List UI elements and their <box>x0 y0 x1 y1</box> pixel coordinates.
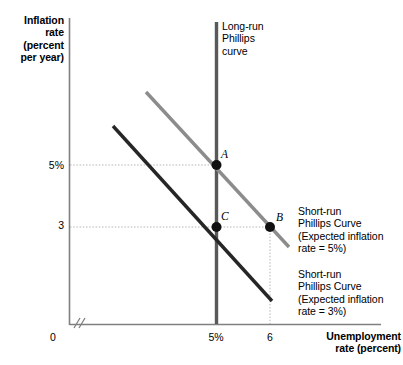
phillips-curve-diagram: Inflation rate (percent per year) Unempl… <box>0 0 403 365</box>
y-tick-label-5pct: 5% <box>36 159 64 171</box>
x-tick-label-5pct: 5% <box>203 331 229 343</box>
short-run-phillips-curve-3 <box>113 126 272 301</box>
point-b-marker <box>265 222 275 232</box>
axis-break-icon <box>73 318 87 330</box>
point-a-marker <box>212 160 222 170</box>
origin-label: 0 <box>46 331 60 343</box>
x-tick-label-6: 6 <box>261 331 279 343</box>
short-run-phillips-curve-3-label: Short-run Phillips Curve (Expected infla… <box>298 268 383 318</box>
point-a-label: A <box>221 148 228 162</box>
y-tick-label-3: 3 <box>36 219 64 231</box>
point-c-label: C <box>221 210 229 224</box>
x-axis-title: Unemployment rate (percent) <box>300 330 401 355</box>
point-b-label: B <box>276 211 283 225</box>
y-axis-title: Inflation rate (percent per year) <box>0 14 64 64</box>
long-run-phillips-curve-label: Long-run Phillips curve <box>222 20 264 57</box>
point-c-marker <box>212 222 222 232</box>
short-run-phillips-curve-5-label: Short-run Phillips Curve (Expected infla… <box>298 205 383 255</box>
